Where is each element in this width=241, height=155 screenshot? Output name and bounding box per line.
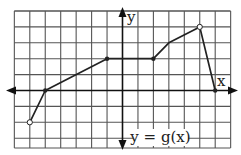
function-label: y = g(x) [129, 128, 190, 146]
open-point-marker [197, 24, 202, 29]
x-axis-label: x [217, 72, 226, 90]
open-point-marker [27, 120, 32, 125]
labels: y = g(x) y x [126, 8, 226, 146]
y-axis-label: y [126, 8, 136, 26]
y-axis-up-arrow-icon [119, 7, 127, 17]
function-graph: y = g(x) y x [0, 0, 241, 155]
axes [6, 7, 238, 150]
closed-point-marker [151, 57, 155, 61]
x-axis-left-arrow-icon [6, 87, 16, 95]
closed-point-marker [43, 88, 47, 92]
x-axis-right-arrow-icon [228, 87, 238, 95]
closed-point-marker [105, 57, 109, 61]
